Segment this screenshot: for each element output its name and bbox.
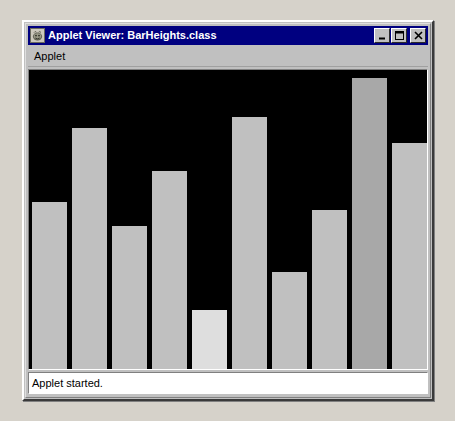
bar-chart-canvas bbox=[29, 70, 427, 369]
window-inner-frame: Applet Viewer: BarHeights.class bbox=[25, 23, 431, 398]
chart-bar bbox=[72, 128, 107, 369]
title-bar[interactable]: Applet Viewer: BarHeights.class bbox=[28, 26, 428, 45]
status-bar: Applet started. bbox=[28, 372, 428, 394]
applet-viewer-icon bbox=[30, 28, 45, 43]
menu-item-applet[interactable]: Applet bbox=[28, 48, 71, 65]
minimize-icon[interactable] bbox=[374, 28, 390, 43]
chart-bar bbox=[32, 202, 67, 369]
chart-bar bbox=[192, 310, 227, 369]
window-controls bbox=[373, 28, 426, 43]
chart-bar bbox=[272, 272, 307, 369]
chart-bar bbox=[232, 117, 267, 369]
close-icon[interactable] bbox=[410, 28, 426, 43]
applet-viewer-window: Applet Viewer: BarHeights.class bbox=[22, 20, 434, 401]
chart-bar bbox=[152, 171, 187, 369]
chart-bar bbox=[392, 143, 427, 369]
chart-bar bbox=[352, 78, 387, 369]
chart-bar bbox=[312, 210, 347, 369]
maximize-icon[interactable] bbox=[391, 28, 407, 43]
applet-canvas-frame bbox=[28, 69, 428, 370]
status-message: Applet started. bbox=[29, 376, 103, 390]
menu-bar: Applet bbox=[28, 47, 428, 67]
chart-bar bbox=[112, 226, 147, 369]
window-title: Applet Viewer: BarHeights.class bbox=[48, 27, 373, 44]
